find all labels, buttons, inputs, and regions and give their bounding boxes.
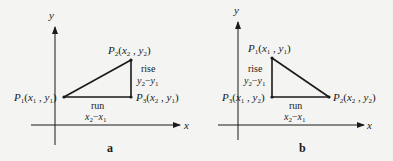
- slope-diagrams: y x P1(x1 , y1) P2(x2 , y2) P3(x2 , y1) …: [0, 0, 393, 161]
- point-p2-a: [129, 58, 132, 61]
- point-p3-a: [129, 95, 132, 98]
- y-axis-label-a: y: [48, 9, 54, 21]
- panel-label-b: b: [299, 141, 306, 155]
- point-p1-b: [270, 56, 273, 59]
- hypotenuse-a: [64, 60, 131, 97]
- y-axis-label-b: y: [233, 4, 239, 16]
- rise-label-b: rise: [248, 63, 263, 74]
- x-axis-label-b: x: [366, 119, 372, 131]
- point-p3-b: [270, 95, 273, 98]
- label-p2-a: P2(x2 , y2): [107, 44, 151, 58]
- point-p2-b: [327, 95, 330, 98]
- point-p1-a: [62, 95, 65, 98]
- rise-label-a: rise: [141, 63, 156, 74]
- run-label-b: run: [289, 100, 302, 111]
- label-p1-a: P1(x1 , y1): [13, 91, 57, 105]
- label-p3-b: P3(x1 , y2): [221, 91, 265, 105]
- panel-label-a: a: [107, 141, 113, 155]
- label-p2-b: P2(x2 , y2): [332, 91, 376, 105]
- rise-expr-a: y2−y1: [136, 75, 159, 88]
- run-expr-b: x2−x1: [283, 111, 306, 124]
- run-expr-a: x2−x1: [84, 111, 107, 124]
- diagram-a: y x P1(x1 , y1) P2(x2 , y2) P3(x2 , y1) …: [13, 9, 189, 155]
- hypotenuse-b: [272, 58, 329, 97]
- label-p1-b: P1(x1 , y1): [247, 42, 291, 56]
- x-axis-label-a: x: [183, 119, 189, 131]
- label-p3-a: P3(x2 , y1): [135, 91, 179, 105]
- run-label-a: run: [91, 100, 104, 111]
- rise-expr-b: y2−y1: [243, 75, 266, 88]
- diagram-b: y x P1(x1 , y1) P3(x1 , y2) P2(x2 , y2) …: [218, 4, 376, 155]
